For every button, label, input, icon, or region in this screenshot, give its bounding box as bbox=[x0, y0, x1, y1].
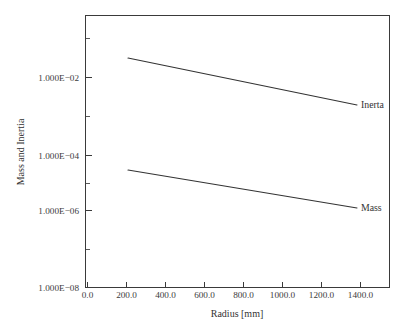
chart-figure: 1.000E−02 1.000E−04 1.000E−06 1.000E−08 … bbox=[0, 0, 414, 331]
y-tick-label-1e-08: 1.000E−08 bbox=[38, 283, 79, 293]
series-label-inerta: Inerta bbox=[361, 99, 384, 110]
y-tick-label-1e-02: 1.000E−02 bbox=[38, 73, 79, 83]
y-tick-label-1e-04: 1.000E−04 bbox=[38, 151, 79, 161]
x-tick-label-0: 0.0 bbox=[82, 290, 94, 300]
series-line-mass bbox=[128, 170, 357, 208]
x-axis-title: Radius [mm] bbox=[211, 308, 264, 319]
x-tick-label-400: 400.0 bbox=[155, 290, 176, 300]
y-axis-minor-ticks bbox=[86, 39, 90, 250]
x-tick-label-1000: 1000.0 bbox=[270, 290, 296, 300]
x-tick-label-600: 600.0 bbox=[194, 290, 215, 300]
x-tick-label-1200: 1200.0 bbox=[309, 290, 335, 300]
y-axis-major-ticks bbox=[86, 78, 92, 288]
y-tick-label-1e-06: 1.000E−06 bbox=[38, 206, 79, 216]
series-label-mass: Mass bbox=[361, 202, 382, 213]
chart-canvas: 1.000E−02 1.000E−04 1.000E−06 1.000E−08 … bbox=[0, 0, 414, 331]
plot-frame bbox=[86, 16, 390, 288]
series-line-inerta bbox=[128, 58, 357, 105]
y-axis-title: Mass and Inertia bbox=[15, 118, 26, 185]
x-tick-label-800: 800.0 bbox=[233, 290, 254, 300]
x-axis-ticks bbox=[88, 282, 361, 288]
x-tick-label-1400: 1400.0 bbox=[348, 290, 374, 300]
x-tick-label-200: 200.0 bbox=[116, 290, 137, 300]
